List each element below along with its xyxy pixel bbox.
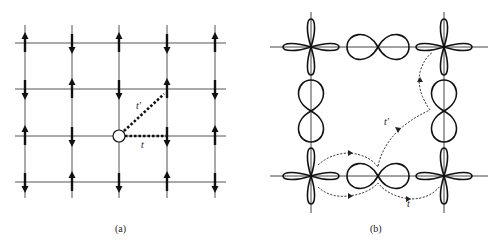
spin-up-arrow-icon bbox=[212, 32, 219, 52]
spin-down-arrow-icon bbox=[212, 80, 219, 100]
hole-site bbox=[113, 130, 125, 142]
figure-canvas: tt′ tt′ bbox=[0, 0, 501, 243]
spin-down-arrow-icon bbox=[116, 80, 123, 100]
spin-down-arrow-icon bbox=[22, 173, 29, 193]
t-prime-path bbox=[378, 52, 433, 166]
p-orbitals bbox=[299, 35, 457, 189]
hole-circle-icon bbox=[113, 130, 125, 142]
hop-label-t: t bbox=[141, 139, 144, 150]
panel-b-orbital-lattice: tt′ bbox=[270, 12, 488, 213]
spin-up-arrow-icon bbox=[22, 32, 29, 52]
spin-up-arrow-icon bbox=[22, 125, 29, 145]
spin-down-arrow-icon bbox=[69, 127, 76, 147]
hop-labels: tt′ bbox=[136, 100, 144, 150]
path-label-t: t bbox=[407, 198, 410, 209]
spin-down-arrow-icon bbox=[212, 173, 219, 193]
spin-arrows bbox=[22, 32, 219, 193]
caption-b: (b) bbox=[370, 223, 382, 234]
spin-up-arrow-icon bbox=[212, 125, 219, 145]
hop-t-prime-bond bbox=[124, 94, 164, 131]
panel-a-spin-lattice: tt′ bbox=[15, 25, 226, 198]
spin-down-arrow-icon bbox=[164, 34, 171, 54]
spin-down-arrow-icon bbox=[164, 127, 171, 147]
arrow-marker-icon bbox=[417, 77, 423, 82]
lattice-grid bbox=[15, 25, 226, 198]
arrow-marker-icon bbox=[395, 127, 401, 133]
arrow-marker-icon bbox=[348, 150, 353, 156]
spin-up-arrow-icon bbox=[69, 171, 76, 191]
spin-down-arrow-icon bbox=[69, 34, 76, 54]
spin-down-arrow-icon bbox=[22, 80, 29, 100]
orbital-axes bbox=[270, 12, 488, 213]
path-label-t-prime: t′ bbox=[384, 116, 390, 127]
hop-label-t-prime: t′ bbox=[136, 100, 142, 111]
arrow-marker-icon bbox=[348, 193, 353, 199]
t-path-lower bbox=[318, 183, 440, 199]
spin-up-arrow-icon bbox=[116, 32, 123, 52]
spin-up-arrow-icon bbox=[69, 78, 76, 98]
caption-a: (a) bbox=[115, 223, 126, 234]
hopping-bonds bbox=[124, 94, 167, 136]
spin-up-arrow-icon bbox=[164, 171, 171, 191]
spin-down-arrow-icon bbox=[116, 173, 123, 193]
